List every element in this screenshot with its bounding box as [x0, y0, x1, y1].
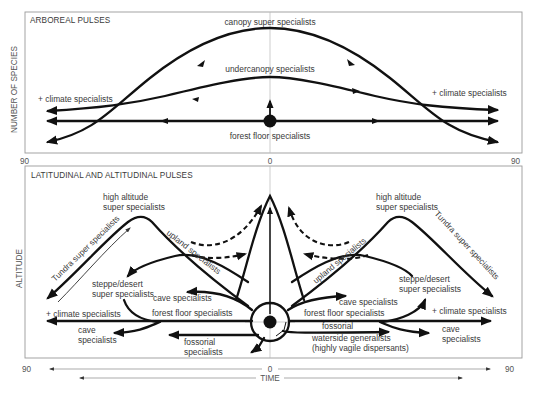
- label-undercanopy: undercanopy specialists: [225, 64, 314, 74]
- label-cave-left-lower-1: cave: [78, 325, 96, 335]
- label-climate-right: + climate specialists: [432, 306, 507, 316]
- label-tundra-right: Tundra super specialists: [433, 209, 502, 282]
- label-fossorial-left-1: fossorial: [184, 337, 215, 347]
- direction-arrow: [197, 60, 205, 67]
- label-climate-left: + climate specialists: [38, 94, 113, 104]
- time-center-label: 0: [268, 365, 273, 374]
- direction-arrow: [160, 118, 168, 124]
- label-high-alt-left-2: super specialists: [103, 202, 165, 212]
- undercanopy-curve: [48, 77, 497, 111]
- tick-left: 90: [20, 157, 30, 166]
- label-canopy: canopy super specialists: [224, 17, 315, 27]
- y-axis-label-species: NUMBER OF SPECIES: [10, 46, 19, 133]
- label-cave-right-upper: cave specialists: [339, 297, 398, 307]
- label-cave-left-upper: cave specialists: [153, 293, 212, 303]
- label-waterside-2: (highly vagile dispersants): [312, 343, 409, 353]
- time-axis: 90 0 90 TIME: [22, 365, 515, 383]
- tick-center: 0: [268, 157, 273, 166]
- direction-arrow: [347, 59, 355, 66]
- time-left-label: 90: [22, 365, 32, 374]
- dashed-arrow-right-upper: [289, 208, 349, 245]
- direction-arrow: [372, 118, 380, 124]
- label-forest-floor-left: forest floor specialists: [152, 308, 233, 318]
- time-right-label: 90: [505, 365, 515, 374]
- y-axis-label-altitude: ALTITUDE: [15, 248, 24, 288]
- time-axis-label: TIME: [260, 374, 280, 383]
- label-steppe-left-1: steppe/desert: [92, 279, 143, 289]
- latitudinal-altitudinal-panel: LATITUDINAL AND ALTITUDINAL PULSES ALTIT…: [15, 166, 522, 358]
- fossorial-left-branch: [252, 338, 264, 352]
- cave-left-lower-arrow: [115, 322, 160, 333]
- top-panel-title: ARBOREAL PULSES: [30, 16, 111, 25]
- label-climate-right: + climate specialists: [432, 88, 507, 98]
- label-climate-left: + climate specialists: [46, 309, 121, 319]
- direction-arrow: [192, 97, 199, 102]
- tick-right: 90: [511, 157, 521, 166]
- label-upland-right: upland specialists: [311, 235, 368, 285]
- bottom-panel-title: LATITUDINAL AND ALTITUDINAL PULSES: [31, 171, 193, 180]
- label-fossorial-right: fossorial: [322, 321, 353, 331]
- label-waterside-1: waterside generalists: [311, 333, 391, 343]
- origin-dot: [264, 115, 277, 128]
- label-cave-right-lower-1: cave: [442, 324, 460, 334]
- label-forest-floor-right: forest floor specialists: [304, 308, 385, 318]
- label-steppe-right-2: super specialists: [399, 284, 461, 294]
- label-high-alt-left-1: high altitude: [103, 192, 149, 202]
- label-fossorial-left-2: specialists: [184, 347, 223, 357]
- label-upland-left: upland specialists: [165, 228, 223, 277]
- label-steppe-left-2: super specialists: [92, 289, 154, 299]
- label-cave-left-lower-2: specialists: [78, 335, 117, 345]
- label-forest-floor: forest floor specialists: [230, 131, 311, 141]
- species-pulses-diagram: ARBOREAL PULSES NUMBER OF SPECIES canopy…: [0, 0, 540, 395]
- label-cave-right-lower-2: specialists: [442, 334, 481, 344]
- label-steppe-right-1: steppe/desert: [399, 274, 450, 284]
- origin-dot: [264, 316, 277, 329]
- label-high-alt-right-1: high altitude: [376, 192, 422, 202]
- label-high-alt-right-2: super specialists: [376, 202, 438, 212]
- dashed-arrow-left-upper: [191, 206, 261, 245]
- arboreal-pulses-panel: ARBOREAL PULSES NUMBER OF SPECIES canopy…: [10, 12, 522, 166]
- tundra-right-curve: [292, 217, 492, 306]
